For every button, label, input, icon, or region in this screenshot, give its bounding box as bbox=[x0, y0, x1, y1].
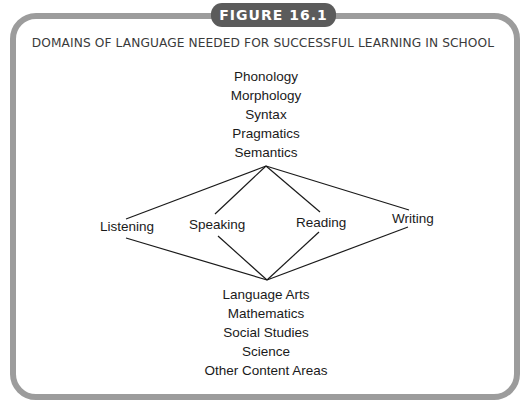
edge-writing-bottom bbox=[267, 227, 408, 280]
content-social-studies: Social Studies bbox=[166, 323, 366, 342]
content-other: Other Content Areas bbox=[166, 361, 366, 380]
node-writing: Writing bbox=[392, 211, 434, 226]
edge-reading-bottom bbox=[267, 232, 319, 280]
node-listening: Listening bbox=[100, 219, 154, 234]
edge-top-speaking bbox=[215, 166, 266, 214]
edge-speaking-bottom bbox=[218, 236, 267, 280]
content-science: Science bbox=[166, 342, 366, 361]
edge-listening-bottom bbox=[126, 238, 267, 280]
content-mathematics: Mathematics bbox=[166, 304, 366, 323]
node-reading: Reading bbox=[296, 215, 346, 230]
edge-top-listening bbox=[126, 166, 266, 219]
content-language-arts: Language Arts bbox=[166, 285, 366, 304]
edge-top-reading bbox=[266, 166, 320, 212]
content-areas-list: Language Arts Mathematics Social Studies… bbox=[166, 285, 366, 380]
edge-top-writing bbox=[266, 166, 409, 210]
node-speaking: Speaking bbox=[189, 217, 245, 232]
